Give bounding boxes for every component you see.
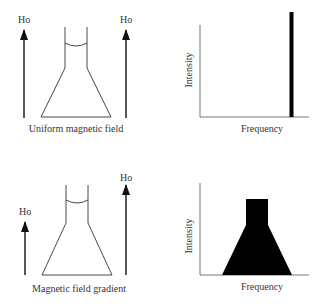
uniform-field-panel: Ho Ho Uniform magnetic field <box>18 14 132 134</box>
uniform-spectrum-chart: Intensity Frequency <box>183 12 309 134</box>
caption: Uniform magnetic field <box>29 123 123 134</box>
x-axis-label: Frequency <box>241 123 283 134</box>
x-axis-label: Frequency <box>241 281 283 292</box>
y-axis-label: Intensity <box>183 219 194 254</box>
field-arrow-left <box>21 221 29 275</box>
flask-icon <box>41 27 111 117</box>
field-arrow-left <box>20 29 28 118</box>
gradient-field-panel: Ho Ho Magnetic field gradient <box>19 172 132 294</box>
arrow-up-icon <box>20 29 28 40</box>
signal-profile <box>222 199 292 275</box>
flask-icon <box>42 185 112 275</box>
field-label-left: Ho <box>18 14 30 25</box>
caption: Magnetic field gradient <box>32 283 126 294</box>
signal-spike <box>290 12 294 117</box>
field-arrow-right <box>122 29 130 118</box>
field-arrow-right <box>122 184 130 275</box>
field-label-right: Ho <box>120 172 132 183</box>
field-label-left: Ho <box>19 206 31 217</box>
diagram-canvas: Ho Ho Uniform magnetic field Intensity F… <box>0 0 332 306</box>
gradient-spectrum-chart: Intensity Frequency <box>183 183 309 292</box>
y-axis-label: Intensity <box>183 53 194 88</box>
arrow-up-icon <box>122 184 130 195</box>
arrow-up-icon <box>122 29 130 40</box>
field-label-right: Ho <box>120 14 132 25</box>
arrow-up-icon <box>21 221 29 232</box>
